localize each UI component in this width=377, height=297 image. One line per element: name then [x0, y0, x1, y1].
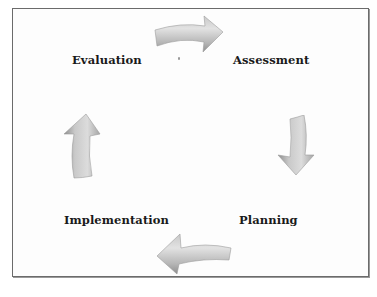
stray-mark	[178, 57, 180, 60]
arrow-up-icon	[62, 110, 104, 180]
cycle-diagram: Evaluation Assessment Implementation Pla…	[0, 0, 377, 297]
step-label-implementation: Implementation	[64, 213, 169, 227]
arrow-left-icon	[155, 232, 233, 276]
step-label-evaluation: Evaluation	[72, 53, 142, 67]
arrow-down-icon	[276, 115, 318, 177]
step-label-planning: Planning	[239, 213, 298, 227]
arrow-right-icon	[153, 12, 225, 54]
step-label-assessment: Assessment	[233, 53, 309, 67]
